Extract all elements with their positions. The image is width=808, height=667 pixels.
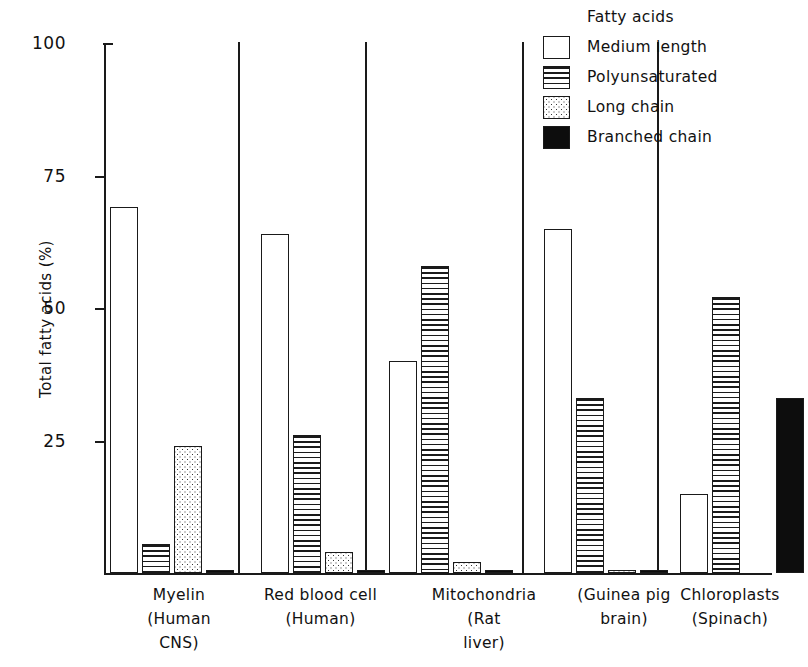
bar-group-2-polyunsaturated — [293, 435, 321, 573]
bar-group-5-medium-length — [680, 494, 708, 574]
y-tick-50 — [95, 308, 106, 310]
group-separator-3 — [522, 42, 524, 573]
legend-item-medium-length: Medium length — [543, 32, 793, 62]
legend-swatch-horizontal-lines-icon — [543, 66, 570, 89]
bar-group-1-medium-length — [110, 207, 138, 573]
legend-label-branched-chain: Branched chain — [587, 128, 712, 146]
legend-item-long-chain: Long chain — [543, 92, 793, 122]
y-tick-label-75: 75 — [0, 166, 66, 186]
bar-group-4-medium-length — [544, 229, 572, 574]
legend-swatch-solid-black-icon — [543, 126, 570, 149]
y-tick-100 — [103, 43, 113, 45]
y-axis-label: Total fatty acids (%) — [37, 169, 55, 469]
y-tick-label-100: 100 — [0, 33, 66, 53]
legend-label-polyunsaturated: Polyunsaturated — [587, 68, 718, 86]
y-tick-25 — [95, 441, 106, 443]
bar-group-3-branched-chain — [485, 570, 513, 573]
group-separator-1 — [238, 42, 240, 573]
legend-swatch-open-icon — [543, 36, 570, 59]
bar-group-5-branched-chain — [776, 398, 804, 573]
legend-title: Fatty acids — [587, 8, 793, 26]
bar-group-4-branched-chain — [640, 570, 668, 573]
bar-group-2-long-chain — [325, 552, 353, 573]
bar-group-3-medium-length — [389, 361, 417, 573]
legend-label-long-chain: Long chain — [587, 98, 674, 116]
bar-group-4-long-chain — [608, 570, 636, 573]
bar-group-2-medium-length — [261, 234, 289, 573]
legend: Fatty acids Medium length Polyunsaturate… — [543, 8, 793, 152]
y-tick-label-50: 50 — [0, 298, 66, 318]
y-tick-label-25: 25 — [0, 431, 66, 451]
bar-group-5-polyunsaturated — [712, 297, 740, 573]
x-axis-line — [104, 573, 772, 575]
group-label-red-blood-cell: Red blood cell (Human) — [228, 583, 413, 631]
bar-group-1-polyunsaturated — [142, 544, 170, 573]
bar-group-3-long-chain — [453, 562, 481, 573]
bar-group-1-long-chain — [174, 446, 202, 573]
group-separator-2 — [365, 42, 367, 573]
legend-label-medium-length: Medium length — [587, 38, 707, 56]
bar-group-3-polyunsaturated — [421, 266, 449, 573]
bar-group-1-branched-chain — [206, 570, 234, 573]
y-tick-75 — [95, 176, 106, 178]
legend-swatch-stipple-icon — [543, 96, 570, 119]
group-label-chloroplasts: Chloroplasts (Spinach) — [650, 583, 808, 631]
legend-item-branched-chain: Branched chain — [543, 122, 793, 152]
bar-group-4-polyunsaturated — [576, 398, 604, 573]
legend-item-polyunsaturated: Polyunsaturated — [543, 62, 793, 92]
bar-group-2-branched-chain — [357, 570, 385, 573]
